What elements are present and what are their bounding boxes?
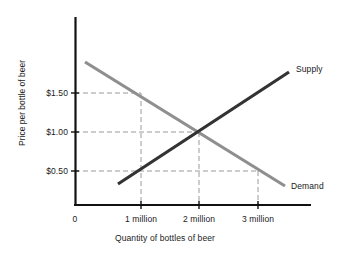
demand-curve xyxy=(85,62,285,186)
supply-demand-chart: Price per bottle of beer $1.50 $1.00 $0.… xyxy=(0,0,352,258)
y-axis-title: Price per bottle of beer xyxy=(17,60,27,146)
supply-series-label: Supply xyxy=(296,64,323,74)
x-tick-label-0: 0 xyxy=(65,214,85,224)
y-tick-label-100: $1.00 xyxy=(34,127,68,137)
x-axis-title: Quantity of bottles of beer xyxy=(0,233,330,243)
y-axis-title-wrap: Price per bottle of beer xyxy=(14,0,30,205)
y-tick-label-050: $0.50 xyxy=(34,166,68,176)
y-tick-label-150: $1.50 xyxy=(34,88,68,98)
x-tick-label-2-million: 2 million xyxy=(169,214,229,224)
supply-curve xyxy=(118,72,289,184)
x-tick-label-1-million: 1 million xyxy=(111,214,171,224)
demand-series-label: Demand xyxy=(291,181,324,191)
x-tick-label-3-million: 3 million xyxy=(228,214,288,224)
